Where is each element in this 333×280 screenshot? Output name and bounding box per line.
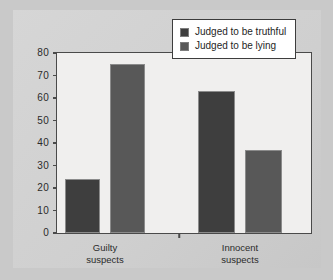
y-axis-tick-label: 60: [37, 93, 53, 103]
y-axis-tick-80: 80: [37, 48, 57, 58]
y-axis-tick-40: 40: [37, 138, 57, 148]
plot-area: 80 70 60 50 40 30 20 10: [56, 52, 312, 234]
y-axis-tick-20: 20: [37, 183, 57, 193]
y-axis-tick-label: 70: [37, 71, 53, 81]
legend-item-label: Judged to be truthful: [195, 27, 286, 37]
y-axis-tick-mark: [53, 75, 57, 77]
y-axis-tick-mark: [53, 187, 57, 189]
chart-legend: Judged to be truthful Judged to be lying: [172, 19, 296, 59]
y-axis-tick-label: 40: [37, 138, 53, 148]
x-axis-label-line2: suspects: [221, 254, 259, 266]
y-axis-tick-0: 0: [43, 228, 57, 238]
x-axis-label-innocent: Innocent suspects: [221, 233, 259, 266]
y-axis-tick-mark: [53, 120, 57, 122]
x-axis-label-line2: suspects: [86, 254, 124, 266]
y-axis-tick-mark: [53, 232, 57, 234]
y-axis-tick-label: 0: [43, 228, 53, 238]
y-axis-tick-label: 10: [37, 206, 53, 216]
legend-item-lying[interactable]: Judged to be lying: [180, 39, 286, 53]
y-axis-tick-mark: [53, 210, 57, 212]
y-axis-tick-mark: [53, 142, 57, 144]
y-axis-tick-70: 70: [37, 71, 57, 81]
bar-chart-figure: 80 70 60 50 40 30 20 10: [0, 0, 333, 280]
y-axis-tick-mark: [53, 165, 57, 167]
y-axis-tick-60: 60: [37, 93, 57, 103]
x-axis-label-line1: Innocent: [222, 242, 258, 253]
y-axis-tick-30: 30: [37, 161, 57, 171]
bar-innocent-lying[interactable]: [245, 150, 282, 233]
y-axis-tick-10: 10: [37, 206, 57, 216]
x-axis-label-line1: Guilty: [93, 242, 117, 253]
y-axis-tick-mark: [53, 97, 57, 99]
bar-guilty-lying[interactable]: [110, 64, 145, 233]
bar-guilty-truthful[interactable]: [65, 179, 100, 233]
y-axis-tick-label: 20: [37, 183, 53, 193]
lying-swatch-icon: [180, 42, 189, 51]
y-axis-tick-label: 50: [37, 116, 53, 126]
x-axis-label-guilty: Guilty suspects: [86, 233, 124, 266]
truthful-swatch-icon: [180, 28, 189, 37]
y-axis-tick-50: 50: [37, 116, 57, 126]
legend-item-truthful[interactable]: Judged to be truthful: [180, 25, 286, 39]
y-axis-tick-mark: [53, 52, 57, 54]
x-axis-separator-tick: [178, 233, 180, 238]
bar-innocent-truthful[interactable]: [198, 91, 235, 233]
legend-item-label: Judged to be lying: [195, 41, 276, 51]
y-axis-tick-label: 30: [37, 161, 53, 171]
y-axis-tick-label: 80: [37, 48, 53, 58]
